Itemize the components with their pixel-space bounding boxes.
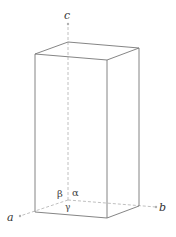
- axis-label-a: a: [7, 211, 14, 224]
- axis-label-c: c: [64, 9, 70, 22]
- edge-bottom-left: [35, 212, 107, 218]
- axis-a: [20, 200, 68, 216]
- axes: [20, 24, 156, 216]
- axis-b: [68, 200, 156, 207]
- angle-label-gamma: γ: [65, 202, 70, 212]
- unit-cell-diagram: c a b β α γ: [0, 0, 176, 237]
- top-face: [35, 42, 139, 60]
- axis-label-b: b: [159, 201, 166, 214]
- prism-edges: [35, 42, 139, 218]
- angle-label-beta: β: [57, 188, 63, 199]
- angle-label-alpha: α: [72, 187, 79, 198]
- edge-bottom-right: [107, 206, 139, 218]
